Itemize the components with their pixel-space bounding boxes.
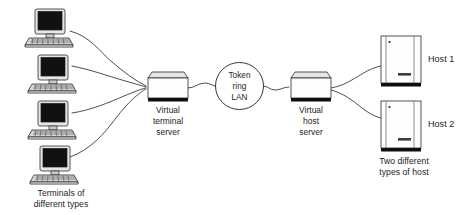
wire-terminal-2 bbox=[72, 66, 146, 87]
wires-host-server-to-hosts bbox=[331, 66, 381, 118]
terminal-1[interactable] bbox=[25, 9, 73, 47]
wires-terminals-to-terminal-server bbox=[70, 31, 146, 157]
virtual-host-server[interactable]: Virtual host server bbox=[291, 72, 331, 137]
token-ring-lan[interactable]: Token ring LAN bbox=[216, 63, 264, 110]
network-diagram: Terminals of different types Virtual ter… bbox=[0, 0, 469, 215]
wire-host-1 bbox=[331, 66, 381, 88]
wire-terminal-4 bbox=[70, 89, 146, 157]
terminal-monitor-neck bbox=[49, 126, 57, 130]
terminal-server-label-line-3: server bbox=[156, 127, 180, 137]
terminal-server-label-line-2: terminal bbox=[153, 116, 183, 126]
server-front-face bbox=[291, 78, 331, 98]
terminal-base bbox=[30, 182, 78, 184]
host-1[interactable]: Host 1 bbox=[381, 36, 454, 87]
terminals-caption-line-2: different types bbox=[34, 199, 89, 209]
host-server-label-line-2: host bbox=[303, 116, 320, 126]
terminal-screen bbox=[41, 58, 65, 77]
host-base-strip bbox=[381, 83, 421, 87]
host-2[interactable]: Host 2 bbox=[381, 101, 454, 152]
host-cabinet-body bbox=[381, 36, 421, 83]
terminal-2[interactable] bbox=[28, 55, 76, 93]
terminals-caption-line-1: Terminals of bbox=[38, 188, 85, 198]
host-base-strip bbox=[381, 148, 421, 152]
host-server-label-line-3: server bbox=[299, 127, 323, 137]
wire-host-2 bbox=[331, 90, 381, 118]
terminal-monitor-neck bbox=[49, 80, 57, 84]
terminal-screen bbox=[43, 149, 67, 168]
diagram-canvas: Terminals of different types Virtual ter… bbox=[0, 0, 469, 215]
hosts-caption-line-1: Two different bbox=[379, 156, 429, 166]
lan-label-line-1: Token bbox=[228, 71, 250, 80]
terminal-server-label-line-1: Virtual bbox=[156, 105, 180, 115]
server-base-strip bbox=[291, 98, 331, 102]
server-top-face bbox=[148, 72, 188, 78]
server-base-strip bbox=[148, 98, 188, 102]
host-power-led-icon bbox=[388, 106, 390, 108]
host-2-label: Host 2 bbox=[428, 119, 454, 129]
terminal-base bbox=[28, 91, 76, 93]
terminal-screen bbox=[41, 104, 65, 123]
terminal-3[interactable] bbox=[28, 101, 76, 139]
wire-terminal-3 bbox=[72, 88, 146, 113]
server-front-face bbox=[148, 78, 188, 98]
hosts-caption-line-2: types of host bbox=[379, 167, 429, 177]
lan-label-line-3: LAN bbox=[231, 93, 247, 102]
wire-lan-to-host-server bbox=[263, 86, 289, 90]
terminal-base bbox=[28, 137, 76, 139]
terminal-screen bbox=[38, 12, 62, 31]
host-1-label: Host 1 bbox=[428, 54, 454, 64]
host-drive-slot bbox=[398, 138, 411, 141]
terminal-base bbox=[25, 45, 73, 47]
lan-label-line-2: ring bbox=[233, 82, 247, 91]
virtual-terminal-server[interactable]: Virtual terminal server bbox=[148, 72, 188, 137]
server-top-face bbox=[291, 72, 331, 78]
host-drive-slot bbox=[398, 73, 411, 76]
host-power-led-icon bbox=[388, 41, 390, 43]
terminal-4[interactable] bbox=[30, 146, 78, 184]
terminal-monitor-neck bbox=[51, 171, 59, 175]
wire-terminal-1 bbox=[70, 31, 146, 86]
wire-terminal-server-to-lan bbox=[188, 83, 216, 88]
terminal-monitor-neck bbox=[46, 34, 54, 38]
host-server-label-line-1: Virtual bbox=[299, 105, 323, 115]
host-cabinet-body bbox=[381, 101, 421, 148]
